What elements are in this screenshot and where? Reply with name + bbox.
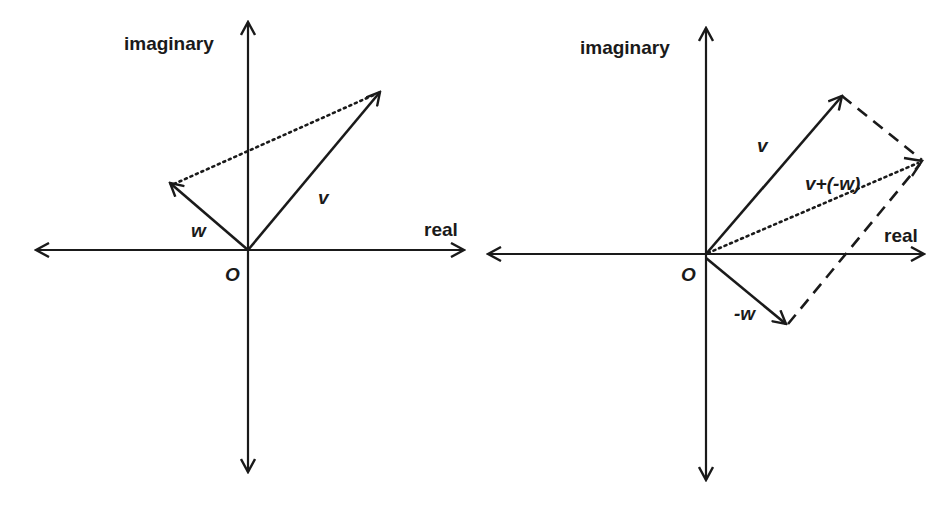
- right-origin-label: O: [681, 264, 696, 285]
- right-neg-w-label: -w: [734, 303, 756, 324]
- right-v-label: v: [757, 135, 769, 156]
- left-imaginary-label: imaginary: [124, 33, 214, 54]
- left-real-label: real: [424, 219, 458, 240]
- left-vector-v: [248, 92, 380, 250]
- right-sum-label: v+(-w): [805, 173, 860, 194]
- left-w-label: w: [191, 220, 207, 241]
- right-dashed-side-top: [842, 96, 922, 160]
- left-v-label: v: [318, 187, 330, 208]
- left-vector-w: [170, 183, 248, 250]
- left-dotted-difference-line: [174, 94, 376, 184]
- left-panel: imaginary real O v w: [36, 22, 464, 472]
- left-origin-label: O: [225, 264, 240, 285]
- right-panel: imaginary real O v -w v+(-w): [488, 28, 924, 480]
- complex-vector-subtraction-diagram: imaginary real O v w imaginary real O v …: [0, 0, 952, 506]
- right-imaginary-label: imaginary: [580, 37, 670, 58]
- right-real-label: real: [884, 225, 918, 246]
